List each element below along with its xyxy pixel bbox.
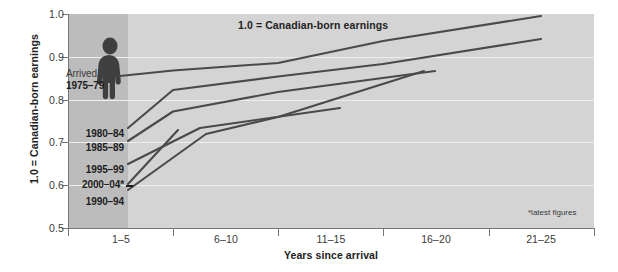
y-axis-title: 1.0 = Canadian-born earnings [28, 9, 40, 209]
x-tick-3 [383, 229, 384, 236]
x-axis-title: Years since arrival [68, 249, 594, 261]
gridline-0-8 [68, 100, 594, 101]
series-label-2000-04: 2000–04* [48, 179, 124, 190]
leader-dash-2000-04 [126, 185, 133, 187]
arrived-label: Arrived [66, 68, 97, 79]
x-axis-line [68, 228, 595, 229]
y-tick-label-0-8: 0.8 [38, 94, 64, 106]
x-tick-1 [173, 229, 174, 236]
series-label-1975-79: 1975–79 [66, 80, 104, 91]
gridline-0-9 [68, 57, 594, 58]
y-tick-label-0-5: 0.5 [38, 222, 64, 234]
series-label-1995-99: 1995–99 [60, 164, 124, 175]
plot-background [68, 14, 594, 228]
series-label-1990-94: 1990–94 [60, 196, 124, 207]
y-tick-label-1-0: 1.0 [38, 8, 64, 20]
x-tick-start [68, 229, 69, 236]
gridline-0-7 [68, 142, 594, 143]
series-label-1980-84: 1980–84 [60, 128, 124, 139]
series-label-1985-89: 1985–89 [60, 142, 124, 153]
footnote: *latest figures [528, 208, 576, 217]
y-tick-label-0-9: 0.9 [38, 51, 64, 63]
x-tick-label-11-15: 11–15 [291, 233, 371, 245]
chart-note: 1.0 = Canadian-born earnings [238, 19, 388, 31]
x-tick-end [594, 229, 595, 236]
x-tick-label-16-20: 16–20 [396, 233, 476, 245]
x-tick-label-1-5: 1–5 [81, 233, 161, 245]
gridline-0-6 [68, 185, 594, 186]
x-tick-label-6-10: 6–10 [186, 233, 266, 245]
chart-container: 1.0 0.9 0.8 0.7 0.6 0.5 1–5 6–10 11–15 1… [0, 0, 618, 272]
x-tick-label-21-25: 21–25 [501, 233, 581, 245]
x-tick-2 [278, 229, 279, 236]
x-tick-4 [489, 229, 490, 236]
